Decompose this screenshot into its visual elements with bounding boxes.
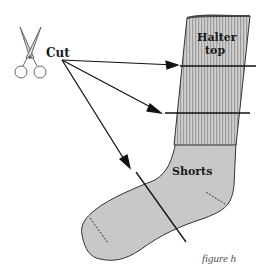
figure-caption: figure h bbox=[202, 252, 237, 264]
halter-top-label-line1: Halter bbox=[197, 31, 237, 44]
sock-foot bbox=[82, 142, 236, 260]
scissors-icon bbox=[15, 27, 46, 78]
cut-arrows bbox=[62, 60, 178, 168]
cut-label: Cut bbox=[46, 46, 70, 60]
halter-top-label-line2: top bbox=[205, 44, 225, 57]
shorts-label: Shorts bbox=[172, 165, 212, 178]
sock-cutting-diagram: Cut Halter top Shorts figure h bbox=[0, 0, 266, 278]
